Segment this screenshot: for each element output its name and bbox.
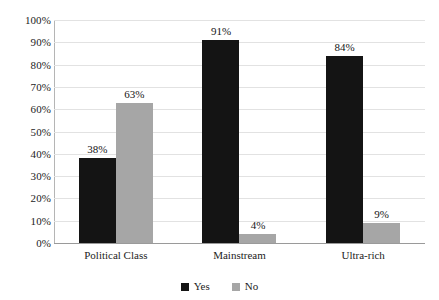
y-axis-tick-label: 100% <box>3 15 51 26</box>
x-axis-category-label: Political Class <box>54 250 178 261</box>
chart-legend: YesNo <box>0 281 439 292</box>
bar-chart: 100%90%80%70%60%50%40%30%20%10%0% 38%63%… <box>0 0 439 300</box>
y-axis-tick-labels: 100%90%80%70%60%50%40%30%20%10%0% <box>0 0 51 300</box>
bar-group: 84%9% <box>301 20 425 243</box>
x-axis-category-label: Ultra-rich <box>301 250 425 261</box>
y-axis-tick-label: 70% <box>3 82 51 93</box>
y-axis-tick-label: 0% <box>3 238 51 249</box>
bar-group: 38%63% <box>54 20 178 243</box>
x-axis-category-labels: Political ClassMainstreamUltra-rich <box>54 250 425 266</box>
bar-yes[interactable]: 38% <box>79 158 116 243</box>
bar-group-bars: 38%63% <box>54 20 178 243</box>
y-axis-tick-label: 80% <box>3 60 51 71</box>
bar-value-label: 38% <box>87 144 107 155</box>
bar-group-bars: 91%4% <box>178 20 302 243</box>
y-axis-tick-label: 20% <box>3 193 51 204</box>
y-axis-tick-label: 40% <box>3 149 51 160</box>
y-axis-tick-label: 60% <box>3 104 51 115</box>
bar-yes[interactable]: 84% <box>326 56 363 243</box>
legend-item-no[interactable]: No <box>232 281 258 292</box>
bar-value-label: 63% <box>124 89 144 100</box>
legend-label: No <box>245 281 258 292</box>
bar-no[interactable]: 9% <box>363 223 400 243</box>
y-axis-tick-label: 90% <box>3 37 51 48</box>
bar-value-label: 9% <box>374 209 389 220</box>
x-axis-category-label: Mainstream <box>178 250 302 261</box>
legend-swatch-icon <box>232 283 240 291</box>
legend-label: Yes <box>194 281 210 292</box>
bar-value-label: 91% <box>211 26 231 37</box>
bar-no[interactable]: 63% <box>116 103 153 243</box>
bar-groups: 38%63%91%4%84%9% <box>54 20 425 243</box>
legend-item-yes[interactable]: Yes <box>181 281 210 292</box>
bar-value-label: 4% <box>251 220 266 231</box>
bar-group-bars: 84%9% <box>301 20 425 243</box>
y-axis-tick-label: 30% <box>3 171 51 182</box>
bar-yes[interactable]: 91% <box>202 40 239 243</box>
y-axis-tick-label: 10% <box>3 216 51 227</box>
bar-group: 91%4% <box>178 20 302 243</box>
x-axis-baseline <box>54 243 425 244</box>
bar-value-label: 84% <box>335 42 355 53</box>
legend-swatch-icon <box>181 283 189 291</box>
bar-no[interactable]: 4% <box>239 234 276 243</box>
y-axis-tick-label: 50% <box>3 127 51 138</box>
